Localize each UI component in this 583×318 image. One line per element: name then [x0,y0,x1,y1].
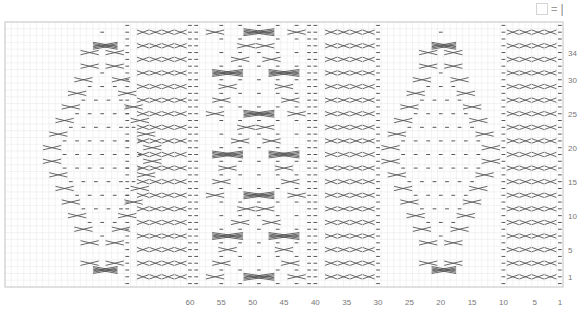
row-tick-label: 15 [568,177,577,186]
stitch-tick-label: 5 [533,298,537,307]
row-tick-label: 10 [568,211,577,220]
knitting-chart-grid [0,0,583,318]
stitch-tick-label: 1 [558,298,562,307]
stitch-tick-label: 60 [186,298,195,307]
stitch-tick-label: 25 [405,298,414,307]
stitch-tick-label: 45 [280,298,289,307]
row-tick-label: 5 [568,245,572,254]
row-tick-label: 1 [568,272,572,281]
stitch-tick-label: 10 [499,298,508,307]
stitch-tick-label: 20 [436,298,445,307]
row-tick-label: 25 [568,109,577,118]
stitch-tick-label: 30 [374,298,383,307]
row-tick-label: 34 [568,48,577,57]
stitch-tick-label: 50 [248,298,257,307]
stitch-tick-label: 35 [342,298,351,307]
stitch-tick-label: 55 [217,298,226,307]
row-tick-label: 20 [568,143,577,152]
row-tick-label: 30 [568,75,577,84]
stitch-tick-label: 15 [468,298,477,307]
stitch-tick-label: 40 [311,298,320,307]
